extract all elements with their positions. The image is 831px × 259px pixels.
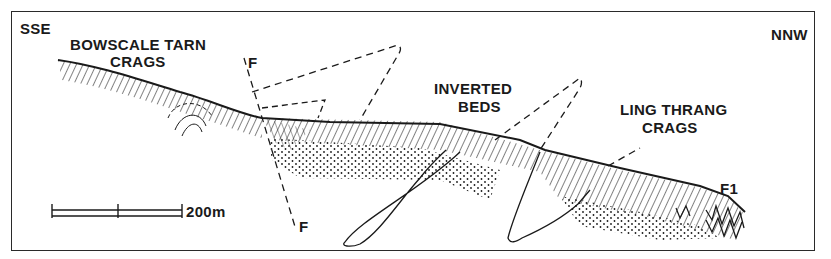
fold-projection-large — [252, 45, 401, 120]
direction-label-nnw: NNW — [771, 26, 808, 43]
scale-bar-graphic — [52, 204, 182, 218]
direction-label-sse: SSE — [20, 20, 51, 37]
label-inverted-line2: BEDS — [458, 98, 501, 115]
label-fault-top: F — [248, 54, 257, 71]
fold-projection-ling — [608, 148, 640, 166]
label-fault-bottom: F — [299, 218, 308, 235]
hatched-strata-sse — [58, 60, 262, 138]
label-ling-line2: CRAGS — [642, 119, 698, 136]
label-bowscale-line2: CRAGS — [110, 53, 166, 70]
label-ling-line1: LING THRANG — [620, 101, 727, 118]
label-f1: F1 — [720, 180, 738, 197]
fold-projection-small — [262, 100, 325, 118]
label-bowscale-line1: BOWSCALE TARN — [70, 36, 206, 53]
label-inverted-line1: INVERTED — [434, 80, 512, 97]
scale-bar-label: 200m — [186, 203, 226, 220]
